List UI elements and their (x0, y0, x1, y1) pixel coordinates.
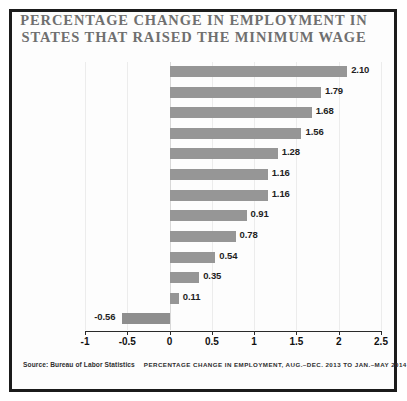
x-axis-tick-label: 1.5 (289, 336, 303, 347)
chart-caption: PERCENTAGE CHANGE IN EMPLOYMENT, AUG.–DE… (144, 361, 407, 368)
gridline (381, 62, 382, 330)
bar-value-label: 0.91 (251, 208, 269, 219)
bar[interactable] (170, 190, 268, 201)
x-axis-tick-mark (254, 331, 255, 335)
x-axis-tick-mark (85, 331, 86, 335)
bar-value-label: 0.54 (219, 250, 237, 261)
bar-value-label: 2.10 (351, 64, 369, 75)
bar-value-label: 0.35 (203, 270, 221, 281)
x-axis-tick-mark (127, 331, 128, 335)
bar-row: 1.28 (85, 144, 381, 165)
bar-row: 1.16 (85, 165, 381, 186)
bar-value-label: -0.56 (94, 311, 115, 322)
bar-row: 0.35 (85, 268, 381, 289)
bar-row: 1.56 (85, 124, 381, 145)
bar[interactable] (170, 231, 236, 242)
bar[interactable] (170, 293, 179, 304)
bar-row: 0.11 (85, 289, 381, 310)
bar-row: 1.68 (85, 103, 381, 124)
x-axis-tick-label: -0.5 (119, 336, 136, 347)
bar[interactable] (170, 169, 268, 180)
bar[interactable] (122, 313, 169, 324)
bar-row: 2.10 (85, 62, 381, 83)
bar-row: -0.56 (85, 309, 381, 330)
source-attribution: Source: Bureau of Labor Statistics (23, 361, 135, 368)
bar[interactable] (170, 148, 278, 159)
bar[interactable] (170, 272, 200, 283)
x-axis-tick-mark (296, 331, 297, 335)
bar[interactable] (170, 252, 216, 263)
bar-value-label: 0.78 (240, 229, 258, 240)
title-line-1: PERCENTAGE CHANGE IN EMPLOYMENT IN (14, 12, 374, 29)
bar-value-label: 1.16 (272, 188, 290, 199)
bar-value-label: 1.68 (316, 105, 334, 116)
bar[interactable] (170, 87, 321, 98)
x-axis-tick-label: 1 (251, 336, 257, 347)
bar-row: 0.54 (85, 248, 381, 269)
x-axis-tick-label: 0.5 (205, 336, 219, 347)
x-axis-tick-label: -1 (81, 336, 90, 347)
x-axis-tick-labels: -1-0.500.511.522.5 (85, 336, 381, 352)
bar-value-label: 0.11 (183, 291, 201, 302)
bar-row: 1.16 (85, 186, 381, 207)
bar-value-label: 1.16 (272, 167, 290, 178)
bar-row: 1.79 (85, 83, 381, 104)
x-axis-tick-mark (170, 331, 171, 335)
x-axis-line (85, 331, 381, 332)
bar[interactable] (170, 107, 312, 118)
plot-area: 2.101.791.681.561.281.161.160.910.780.54… (85, 62, 381, 330)
title-line-2: STATES THAT RAISED THE MINIMUM WAGE (14, 29, 374, 46)
bar[interactable] (170, 210, 247, 221)
x-axis-tick-mark (212, 331, 213, 335)
x-axis-tick-label: 0 (167, 336, 173, 347)
x-axis-tick-label: 2 (336, 336, 342, 347)
chart-footer: Source: Bureau of Labor Statistics PERCE… (23, 361, 379, 368)
bar[interactable] (170, 128, 302, 139)
x-axis-tick-mark (339, 331, 340, 335)
bar-value-label: 1.79 (325, 85, 343, 96)
bar-value-label: 1.56 (306, 126, 324, 137)
bar[interactable] (170, 66, 348, 77)
bar-row: 0.91 (85, 206, 381, 227)
x-axis-tick-label: 2.5 (374, 336, 388, 347)
page-title: PERCENTAGE CHANGE IN EMPLOYMENT IN STATE… (14, 12, 374, 46)
x-axis-tick-mark (381, 331, 382, 335)
bar-value-label: 1.28 (282, 146, 300, 157)
bar-row: 0.78 (85, 227, 381, 248)
